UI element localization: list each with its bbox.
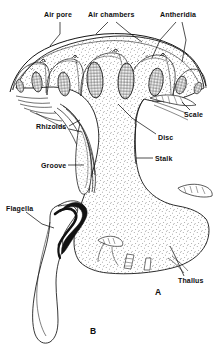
label-disc: Disc xyxy=(158,134,173,141)
panel-a-receptacle xyxy=(10,22,212,276)
label-rhizoids: Rhizoids xyxy=(36,123,66,130)
panel-caption-a: A xyxy=(155,288,161,297)
figure-page: Air pore Air chambers Antheridia Scale D… xyxy=(0,0,220,351)
groove-shape xyxy=(76,124,92,194)
label-stalk: Stalk xyxy=(155,155,172,162)
label-scale: Scale xyxy=(184,111,203,118)
label-flagella: Flagella xyxy=(6,205,33,212)
label-thallus: Thallus xyxy=(178,277,204,284)
label-antheridia: Antheridia xyxy=(160,11,196,18)
label-groove: Groove xyxy=(41,162,66,169)
botanical-diagram xyxy=(0,0,220,351)
panel-caption-b: B xyxy=(90,327,96,336)
label-air-chambers: Air chambers xyxy=(88,11,135,18)
panel-b-antherozoid xyxy=(26,201,87,343)
scale-group-right xyxy=(178,184,212,197)
label-air-pore: Air pore xyxy=(44,11,72,18)
